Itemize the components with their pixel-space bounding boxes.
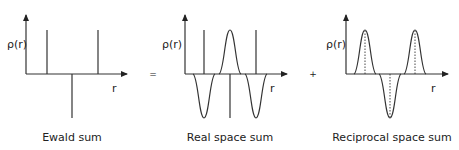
- panel-ewald-sum: [26, 15, 127, 118]
- xlabel: r: [270, 82, 275, 95]
- panel-real-space-sum: [185, 15, 287, 118]
- gaussian-negative: [245, 74, 267, 118]
- gaussian-positive: [219, 30, 241, 74]
- caption-reciprocal-space-sum: Reciprocal space sum: [332, 131, 452, 144]
- ylabel: ρ(r): [162, 38, 182, 51]
- equals-sign: =: [149, 69, 157, 79]
- ylabel: ρ(r): [326, 38, 346, 51]
- panel-reciprocal-space-sum: [346, 15, 448, 118]
- xlabel: r: [431, 82, 436, 95]
- plus-sign: +: [309, 69, 317, 79]
- caption-ewald-sum: Ewald sum: [42, 131, 102, 144]
- ewald-diagram: ρ(r) r Ewald sum = ρ(r) r Real space sum…: [0, 0, 459, 150]
- gaussian-negative: [193, 74, 215, 118]
- caption-real-space-sum: Real space sum: [187, 131, 273, 144]
- xlabel: r: [112, 82, 117, 95]
- ylabel: ρ(r): [7, 38, 27, 51]
